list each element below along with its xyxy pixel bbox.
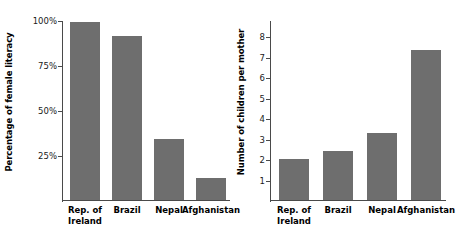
y-tick-label: 100% bbox=[33, 16, 57, 26]
y-tick-label: 2 bbox=[260, 155, 265, 165]
chart-panel-female-literacy: Percentage of female literacy 25%50%75%1… bbox=[0, 0, 228, 235]
y-tick-mark bbox=[266, 119, 270, 120]
plot-area-left: 25%50%75%100% bbox=[62, 21, 222, 201]
chart-panel-children-per-mother: Number of children per mother 12345678 R… bbox=[228, 0, 448, 235]
y-tick-label: 50% bbox=[38, 106, 57, 116]
y-tick-mark bbox=[266, 181, 270, 182]
y-tick-mark bbox=[266, 37, 270, 38]
plot-area-right: 12345678 bbox=[270, 21, 438, 201]
y-tick-label: 6 bbox=[260, 73, 265, 83]
bar bbox=[411, 50, 441, 200]
y-tick-mark bbox=[266, 99, 270, 100]
bar bbox=[367, 133, 397, 201]
y-tick-mark bbox=[266, 140, 270, 141]
bar bbox=[112, 36, 142, 200]
bar bbox=[196, 178, 226, 200]
x-axis-line-left bbox=[62, 200, 230, 201]
y-tick-mark bbox=[266, 58, 270, 59]
y-tick-mark bbox=[58, 111, 62, 112]
y-tick-label: 5 bbox=[260, 94, 265, 104]
y-tick-label: 4 bbox=[260, 114, 265, 124]
y-tick-label: 3 bbox=[260, 135, 265, 145]
y-axis-line-right bbox=[270, 21, 271, 202]
y-tick-mark bbox=[58, 21, 62, 22]
bar bbox=[279, 159, 309, 200]
bar bbox=[323, 151, 353, 200]
y-tick-mark bbox=[266, 160, 270, 161]
bar bbox=[154, 139, 184, 200]
y-tick-label: 25% bbox=[38, 151, 57, 161]
y-axis-title-right: Number of children per mother bbox=[234, 7, 248, 197]
x-axis-line-right bbox=[270, 200, 446, 201]
y-axis-line-left bbox=[62, 21, 63, 202]
y-tick-label: 1 bbox=[260, 176, 265, 186]
y-tick-mark bbox=[58, 156, 62, 157]
y-axis-title-left: Percentage of female literacy bbox=[2, 7, 16, 197]
bar bbox=[70, 22, 100, 200]
y-tick-label: 75% bbox=[38, 61, 57, 71]
y-tick-mark bbox=[266, 78, 270, 79]
y-tick-label: 7 bbox=[260, 53, 265, 63]
x-tick-label: Afghanistan bbox=[386, 205, 460, 216]
y-tick-mark bbox=[58, 66, 62, 67]
y-tick-label: 8 bbox=[260, 32, 265, 42]
